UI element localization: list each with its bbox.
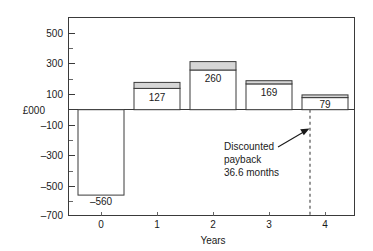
- bar-group-year-4: 79: [302, 95, 348, 110]
- x-axis-tick-labels: 0 1 2 3 4: [98, 219, 328, 230]
- bar-cap-year-4: [302, 95, 348, 98]
- xtick-label-3: 3: [266, 219, 272, 230]
- y-axis-unit-label: £000: [23, 105, 46, 116]
- annotation-arrow: [278, 129, 310, 148]
- ytick-label-neg300: –300: [41, 150, 64, 161]
- bar-year-0: [78, 110, 124, 195]
- bar-label-year-0: –560: [90, 196, 113, 207]
- discounted-payback-annotation: Discounted payback 36.6 months: [224, 141, 279, 178]
- bar-cap-year-2: [190, 62, 236, 70]
- y-axis-major-ticks: [69, 33, 75, 215]
- annotation-line-3: 36.6 months: [224, 167, 279, 178]
- xtick-label-1: 1: [154, 219, 160, 230]
- ytick-label-neg100: –100: [41, 120, 64, 131]
- x-axis-title: Years: [200, 235, 225, 246]
- xtick-label-0: 0: [98, 219, 104, 230]
- ytick-label-neg700: –700: [41, 210, 64, 221]
- ytick-label-100: 100: [46, 89, 63, 100]
- xtick-label-2: 2: [210, 219, 216, 230]
- bar-cap-year-3: [246, 81, 292, 84]
- bar-group-year-0: –560: [78, 110, 124, 207]
- bar-label-year-2: 260: [205, 73, 222, 84]
- ytick-label-neg500: –500: [41, 181, 64, 192]
- ytick-label-300: 300: [46, 58, 63, 69]
- x-axis-ticks: [101, 212, 325, 216]
- ytick-label-500: 500: [46, 28, 63, 39]
- bar-label-year-3: 169: [261, 87, 278, 98]
- bar-label-year-4: 79: [319, 99, 331, 110]
- y-axis-tick-labels: 500 300 100 –100 –300 –500 –700: [41, 28, 64, 221]
- bar-group-year-3: 169: [246, 81, 292, 110]
- discounted-cashflow-chart: 500 300 100 –100 –300 –500 –700 £000 –56…: [0, 0, 373, 251]
- chart-canvas: 500 300 100 –100 –300 –500 –700 £000 –56…: [0, 0, 373, 251]
- xtick-label-4: 4: [322, 219, 328, 230]
- bar-cap-year-1: [134, 82, 180, 88]
- annotation-line-1: Discounted: [224, 141, 274, 152]
- bar-label-year-1: 127: [149, 92, 166, 103]
- bar-group-year-1: 127: [134, 82, 180, 109]
- bar-group-year-2: 260: [190, 62, 236, 110]
- annotation-line-2: payback: [224, 154, 262, 165]
